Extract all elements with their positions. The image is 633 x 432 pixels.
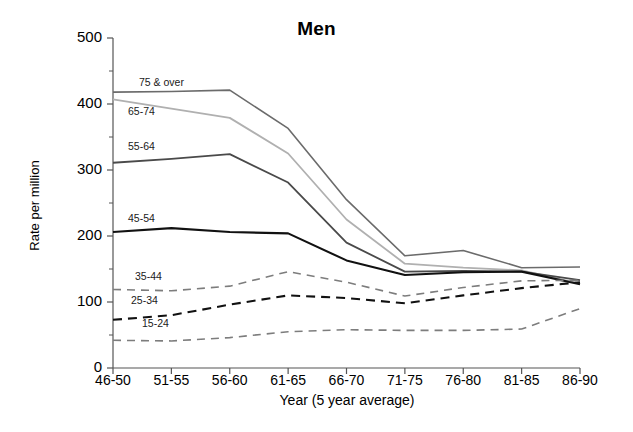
series-label-65-74: 65-74 (128, 105, 155, 117)
series-label-45-54: 45-54 (128, 212, 155, 224)
series-line-6 (113, 309, 580, 341)
series-label-35-44: 35-44 (135, 270, 162, 282)
series-line-4 (113, 272, 580, 296)
y-tick-label: 200 (56, 226, 102, 243)
y-tick-label: 500 (56, 28, 102, 45)
series-line-5 (113, 282, 580, 320)
series-label-75-over: 75 & over (139, 76, 184, 88)
y-tick-label: 300 (56, 160, 102, 177)
series-group (113, 90, 580, 341)
chart-container: Men Rate per million Year (5 year averag… (0, 0, 633, 432)
x-tick-label: 86-90 (545, 372, 615, 388)
axes-group (107, 38, 580, 374)
series-label-15-24: 15-24 (142, 317, 169, 329)
y-tick-label: 400 (56, 94, 102, 111)
series-line-0 (113, 90, 580, 268)
y-tick-label: 100 (56, 292, 102, 309)
series-line-1 (113, 99, 580, 283)
series-label-25-34: 25-34 (131, 294, 158, 306)
series-line-3 (113, 228, 580, 284)
series-label-55-64: 55-64 (128, 140, 155, 152)
